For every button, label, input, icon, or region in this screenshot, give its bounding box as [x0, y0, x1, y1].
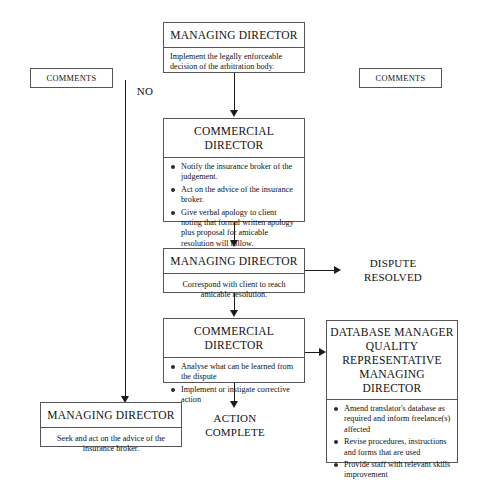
node-title: MANAGING DIRECTOR — [164, 249, 304, 274]
dispute-resolved-label: DISPUTE RESOLVED — [338, 257, 448, 284]
node-database-manager: DATABASE MANAGER QUALITY REPRESENTATIVE … — [326, 320, 458, 463]
comments-box-left: COMMENTS — [30, 68, 113, 88]
list-item: Notify the insurance broker of the judge… — [170, 162, 298, 183]
bullet-list: Amend translator's database as required … — [333, 404, 451, 481]
comments-left-label: COMMENTS — [47, 74, 97, 83]
node-title: COMMERCIAL DIRECTOR — [164, 119, 304, 158]
connector-md-top-to-cd1-arrowhead — [230, 110, 238, 117]
list-item: Act on the advice of the insurance broke… — [170, 185, 298, 206]
comments-right-label: COMMENTS — [376, 74, 426, 83]
node-title: MANAGING DIRECTOR — [164, 23, 304, 48]
node-managing-director-top: MANAGING DIRECTOR Implement the legally … — [163, 22, 305, 73]
connector-cd2-to-action-complete — [234, 383, 235, 403]
node-commercial-director-1: COMMERCIAL DIRECTOR Notify the insurance… — [163, 118, 305, 222]
node-title: COMMERCIAL DIRECTOR — [164, 319, 304, 358]
no-branch-label: NO — [125, 85, 165, 99]
connector-md2-to-cd2-arrowhead — [230, 310, 238, 317]
node-commercial-director-2: COMMERCIAL DIRECTOR Analyse what can be … — [163, 318, 305, 383]
node-body: Amend translator's database as required … — [327, 400, 457, 485]
list-item: Amend translator's database as required … — [333, 404, 451, 435]
comments-box-right: COMMENTS — [359, 68, 442, 88]
no-branch-connector-line — [125, 80, 126, 398]
node-body: Seek and act on the advice of the insura… — [41, 428, 181, 461]
connector-cd2-to-action-complete-arrowhead — [230, 401, 238, 408]
node-managing-director-2: MANAGING DIRECTOR Correspond with client… — [163, 248, 305, 293]
connector-md2-to-cd2 — [234, 293, 235, 311]
list-item: Analyse what can be learned from the dis… — [170, 362, 298, 383]
flowchart-canvas: COMMENTS COMMENTS NO MANAGING DIRECTOR I… — [0, 0, 478, 490]
node-title: DATABASE MANAGER QUALITY REPRESENTATIVE … — [327, 321, 457, 400]
connector-md2-to-dispute-resolved — [305, 270, 335, 271]
action-complete-label: ACTION COMPLETE — [180, 412, 290, 439]
connector-cd2-to-database-manager-arrowhead — [319, 348, 326, 356]
connector-cd1-to-md2-arrowhead — [230, 240, 238, 247]
list-item: Revise procedures, instructions and form… — [333, 437, 451, 458]
node-managing-director-bottom: MANAGING DIRECTOR Seek and act on the ad… — [40, 402, 182, 447]
connector-md-top-to-cd1 — [234, 73, 235, 111]
node-title: MANAGING DIRECTOR — [41, 403, 181, 428]
list-item: Provide staff with relevant skills impro… — [333, 460, 451, 481]
connector-cd1-to-md2 — [234, 222, 235, 242]
